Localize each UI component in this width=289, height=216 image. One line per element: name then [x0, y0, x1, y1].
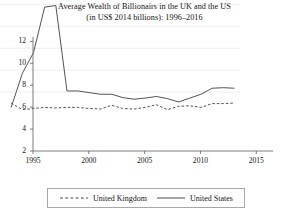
x-tick-2010: 2010: [183, 156, 217, 165]
legend-label-us: United States: [190, 194, 233, 203]
series-line-uk: [11, 103, 234, 110]
legend-label-uk: United Kingdom: [93, 194, 147, 203]
y-tick-6: 6: [10, 102, 26, 111]
x-tick-1995: 1995: [16, 156, 50, 165]
x-tick-2015: 2015: [239, 156, 273, 165]
y-tick-4: 4: [10, 124, 26, 133]
y-tick-10: 10: [10, 58, 26, 67]
y-tick-2: 2: [10, 146, 26, 155]
chart-title: Average Wealth of Billionairs in the UK …: [0, 2, 289, 23]
chart-title-line-1: Average Wealth of Billionairs in the UK …: [0, 2, 289, 13]
chart-legend: United Kingdom United States: [47, 188, 245, 208]
y-tick-12: 12: [10, 36, 26, 45]
chart-title-line-2: (in US$ 2014 billions): 1996–2016: [0, 13, 289, 24]
y-tick-8: 8: [10, 80, 26, 89]
legend-item-us: United States: [156, 194, 233, 203]
x-tick-2005: 2005: [128, 156, 162, 165]
x-tick-2000: 2000: [72, 156, 106, 165]
legend-swatch-solid: [156, 194, 186, 202]
legend-swatch-dashed: [59, 194, 89, 202]
chart-figure: Average Wealth of Billionairs in the UK …: [0, 0, 289, 216]
legend-item-uk: United Kingdom: [59, 194, 147, 203]
